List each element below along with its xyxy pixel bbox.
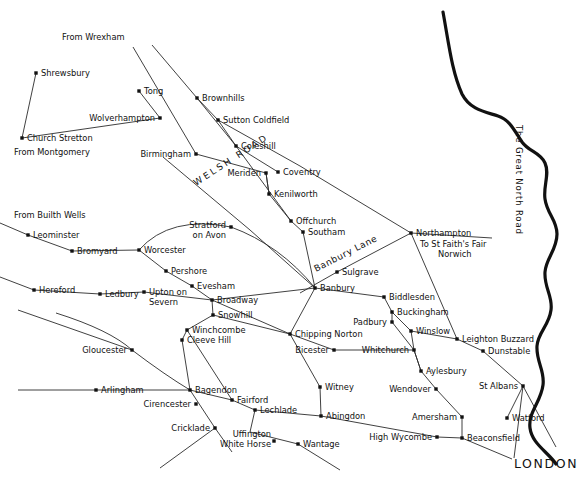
place-label: Bromyard: [77, 246, 118, 256]
road-witney-abingdon: [320, 387, 321, 416]
terminus-label: From Builth Wells: [14, 210, 86, 220]
place-label: Broadway: [217, 295, 258, 305]
place-node[interactable]: [319, 414, 322, 417]
road-aylesbury-beaconsfield: [421, 371, 462, 438]
place-node[interactable]: [137, 89, 140, 92]
place-label: Birmingham: [140, 149, 191, 159]
place-node[interactable]: [216, 118, 219, 121]
terminus-label: From Montgomery: [14, 147, 90, 157]
place-node[interactable]: [229, 225, 232, 228]
place-node[interactable]: [267, 192, 270, 195]
place-node[interactable]: [70, 249, 73, 252]
place-node[interactable]: [521, 384, 524, 387]
place-label: Amersham: [412, 412, 457, 422]
place-node[interactable]: [137, 248, 140, 251]
place-node[interactable]: [412, 348, 415, 351]
place-label: Northampton: [416, 228, 471, 238]
place-node[interactable]: [142, 290, 145, 293]
place-node[interactable]: [419, 369, 422, 372]
place-node[interactable]: [94, 388, 97, 391]
place-label: Winslow: [416, 326, 450, 336]
named-road-labels: WELSH ROAD Banbury Lane The Great North …: [192, 124, 524, 274]
place-node[interactable]: [455, 337, 458, 340]
place-node[interactable]: [409, 329, 412, 332]
place-node[interactable]: [190, 284, 193, 287]
place-node[interactable]: [185, 328, 188, 331]
place-node[interactable]: [276, 170, 279, 173]
place-node[interactable]: [253, 408, 256, 411]
place-node[interactable]: [264, 171, 267, 174]
map-canvas: ShrewsburyChurch StrettonTongWolverhampt…: [0, 0, 578, 478]
place-label-line: Severn: [149, 297, 178, 307]
place-node[interactable]: [296, 442, 299, 445]
road-southam-banbury: [303, 232, 315, 288]
road-cleeve-hill-bagendon: [182, 340, 190, 390]
place-node[interactable]: [434, 387, 437, 390]
place-label: Sulgrave: [342, 267, 379, 277]
place-node[interactable]: [390, 320, 393, 323]
road-highwycombe-west: [437, 437, 462, 438]
place-label: Wolverhampton: [89, 113, 155, 123]
place-label: Aylesbury: [426, 366, 467, 376]
road-west-diagonal-gloucester: [18, 310, 132, 350]
place-node[interactable]: [313, 286, 316, 289]
place-label: Snowhill: [218, 310, 253, 320]
place-label: Gloucester: [82, 345, 127, 355]
place-label: Watford: [512, 413, 545, 423]
place-node[interactable]: [318, 385, 321, 388]
place-node[interactable]: [382, 295, 385, 298]
place-node[interactable]: [409, 231, 412, 234]
place-node[interactable]: [211, 313, 214, 316]
place-node[interactable]: [20, 136, 23, 139]
place-label: Leominster: [33, 230, 80, 240]
place-node[interactable]: [435, 435, 438, 438]
place-label: Sutton Coldfield: [223, 115, 289, 125]
road-wrexham-tong-birmingham: [133, 47, 303, 232]
place-node[interactable]: [390, 310, 393, 313]
place-label-line: White Horse: [220, 439, 271, 449]
place-node[interactable]: [26, 233, 29, 236]
place-label: Winchcombe: [192, 325, 246, 335]
place-node[interactable]: [460, 415, 463, 418]
place-label: Wantage: [303, 439, 340, 449]
place-node[interactable]: [34, 71, 37, 74]
place-node[interactable]: [481, 349, 484, 352]
place-label-line: Stratford: [189, 220, 226, 230]
place-node[interactable]: [180, 338, 183, 341]
place-node[interactable]: [158, 116, 161, 119]
place-node[interactable]: [272, 439, 275, 442]
road-stratford-welsh-road: [231, 227, 315, 288]
place-label: Church Stretton: [27, 133, 93, 143]
place-node[interactable]: [194, 152, 197, 155]
place-node[interactable]: [210, 298, 213, 301]
place-node[interactable]: [288, 332, 291, 335]
london-label: LONDON: [514, 456, 578, 471]
map-annotation: To St Faith's Fair: [419, 239, 487, 249]
place-node[interactable]: [230, 398, 233, 401]
place-node[interactable]: [335, 270, 338, 273]
place-node[interactable]: [332, 348, 335, 351]
place-label: Padbury: [353, 317, 387, 327]
map-annotation: Norwich: [438, 249, 472, 259]
place-label: Ledbury: [105, 289, 139, 299]
place-node[interactable]: [234, 144, 237, 147]
place-node[interactable]: [130, 348, 133, 351]
place-node[interactable]: [460, 436, 463, 439]
place-label: Meriden: [227, 168, 261, 178]
place-label: Fairford: [237, 395, 268, 405]
place-node[interactable]: [505, 416, 508, 419]
place-node[interactable]: [213, 426, 216, 429]
place-node[interactable]: [289, 219, 292, 222]
place-node[interactable]: [301, 230, 304, 233]
place-label-multiline: UffingtonWhite Horse: [220, 429, 271, 449]
place-label: High Wycombe: [369, 432, 432, 442]
place-label: Offchurch: [296, 216, 336, 226]
place-node[interactable]: [188, 388, 191, 391]
place-label: Pershore: [171, 266, 207, 276]
great-north-road-label: The Great North Road: [514, 124, 524, 235]
place-node[interactable]: [98, 292, 101, 295]
place-node[interactable]: [195, 96, 198, 99]
place-node[interactable]: [32, 288, 35, 291]
place-node[interactable]: [194, 402, 197, 405]
place-node[interactable]: [164, 269, 167, 272]
